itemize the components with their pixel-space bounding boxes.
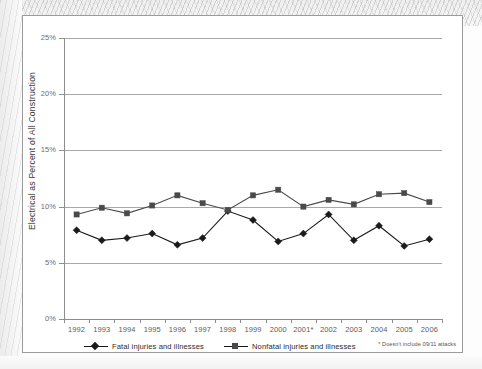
gridline-15 (64, 150, 442, 151)
x-tick-mark (417, 319, 418, 323)
x-tick-mark (190, 319, 191, 323)
paper-texture-bottom (0, 356, 482, 369)
y-tick-label: 0% (16, 314, 56, 323)
x-tick-mark (341, 319, 342, 323)
x-tick-mark (266, 319, 267, 323)
gridline-5 (64, 263, 442, 264)
x-tick-mark (64, 319, 65, 323)
x-tick-mark (392, 319, 393, 323)
legend-item-fatal: Fatal injuries and illnesses (84, 341, 204, 351)
gridline-25 (64, 38, 442, 39)
x-tick-mark (442, 319, 443, 323)
legend-item-nonfatal: Nonfatal injuries and illnesses (224, 341, 356, 351)
figure-border (22, 15, 463, 353)
x-tick-mark (89, 319, 90, 323)
x-tick-mark (366, 319, 367, 323)
square-marker-icon (224, 342, 248, 350)
gridline-20 (64, 94, 442, 95)
footnote: * Doesn't include 09/11 attacks (378, 341, 456, 347)
y-axis-label: Electrical as Percent of All Constructio… (27, 21, 37, 281)
gridline-10 (64, 207, 442, 208)
gridline-0 (64, 319, 442, 320)
x-tick-mark (140, 319, 141, 323)
legend-label-nonfatal: Nonfatal injuries and illnesses (252, 342, 356, 351)
legend-label-fatal: Fatal injuries and illnesses (112, 342, 204, 351)
x-tick-mark (291, 319, 292, 323)
chart-figure: 25%20%15%10%5%0% Electrical as Percent o… (0, 0, 482, 369)
x-tick-mark (114, 319, 115, 323)
x-tick-mark (240, 319, 241, 323)
diamond-marker-icon (84, 342, 108, 350)
x-tick-mark (215, 319, 216, 323)
x-tick-mark (316, 319, 317, 323)
x-tick-label-2006: 2006 (412, 325, 446, 334)
x-tick-mark (165, 319, 166, 323)
y-axis-line (64, 38, 65, 319)
